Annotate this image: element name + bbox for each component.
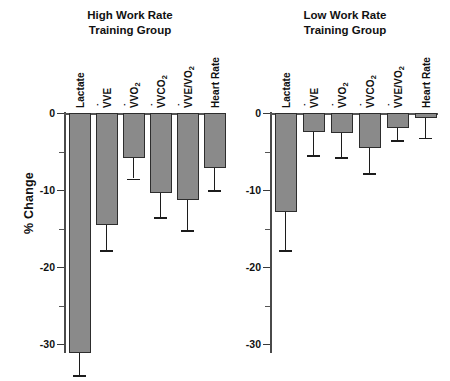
y-tick-minus15 bbox=[59, 229, 64, 230]
y-ticklabel-minus30: -30 bbox=[246, 338, 261, 350]
figure-chart-percent-change: % Change High Work Rate Training Group 0… bbox=[0, 0, 450, 381]
bar-label-ve-vo2-sub: 2 bbox=[186, 66, 195, 70]
bar-label-lactate: Lactate bbox=[74, 72, 85, 108]
plot-area-low-work-rate: 0 -10 -20 -30 Lactate VVE bbox=[270, 113, 438, 353]
bar-label-ve-vo2: VVE/VO2 bbox=[182, 66, 193, 108]
panel-low-work-rate: Low Work Rate Training Group 0 -10 -20 -… bbox=[240, 0, 450, 381]
y-ticklabel-minus10: -10 bbox=[40, 184, 55, 196]
y-tick-minus20 bbox=[57, 267, 64, 268]
overdot-ve: V bbox=[308, 101, 319, 108]
bar-rect-ve bbox=[96, 113, 118, 225]
error-line-lactate bbox=[79, 353, 81, 375]
error-cap-heart-rate bbox=[208, 190, 221, 192]
bar-item-vo2: VVO2 bbox=[123, 113, 145, 353]
bar-label-lactate: Lactate bbox=[280, 72, 291, 108]
plot-area-high-work-rate: 0 -10 -20 -30 Lactate VVE bbox=[64, 113, 224, 353]
bar-label-vo2-sub: 2 bbox=[340, 82, 349, 86]
bar-item-lactate: Lactate bbox=[69, 113, 91, 353]
y-tick-0 bbox=[263, 113, 270, 114]
error-cap-vco2 bbox=[363, 173, 376, 175]
bar-rect-heart-rate bbox=[204, 113, 226, 168]
overdot-vo2: V bbox=[128, 101, 139, 108]
overdot-ve-vo2: V bbox=[392, 101, 403, 108]
error-line-heart-rate bbox=[425, 118, 427, 138]
bar-label-ve-text: VE bbox=[101, 88, 112, 102]
bar-label-ve-vo2: VVE/VO2 bbox=[392, 66, 403, 108]
bar-item-vco2: VVCO2 bbox=[150, 113, 172, 353]
error-cap-ve bbox=[100, 250, 113, 252]
bar-label-vco2-text: VCO bbox=[155, 79, 166, 101]
panel-title-low-work-rate: Low Work Rate Training Group bbox=[240, 8, 450, 38]
bar-group-high-work-rate: Lactate VVE VVO2 bbox=[66, 113, 225, 353]
y-tick-minus15 bbox=[265, 229, 270, 230]
bar-rect-lactate bbox=[69, 113, 91, 353]
bar-item-vo2: VVO2 bbox=[331, 113, 353, 353]
y-tick-minus25 bbox=[265, 306, 270, 307]
bar-rect-vo2 bbox=[123, 113, 145, 158]
bar-label-ve: VVE bbox=[308, 88, 319, 108]
bar-label-ve-vo2-text: VE/VO bbox=[182, 70, 193, 101]
error-line-ve bbox=[313, 132, 315, 155]
bar-rect-vco2 bbox=[359, 113, 381, 148]
y-tick-minus10 bbox=[57, 190, 64, 191]
y-ticklabel-minus20: -20 bbox=[246, 261, 261, 273]
bar-label-vco2-sub: 2 bbox=[159, 75, 168, 79]
y-ticklabel-0: 0 bbox=[49, 107, 55, 119]
bar-label-ve-vo2-text: VE/VO bbox=[392, 70, 403, 101]
bar-item-lactate: Lactate bbox=[275, 113, 297, 353]
y-ticklabel-minus20: -20 bbox=[40, 261, 55, 273]
y-ticklabel-0: 0 bbox=[255, 107, 261, 119]
bar-label-vo2: VVO2 bbox=[336, 82, 347, 108]
overdot-vco2: V bbox=[155, 101, 166, 108]
overdot-vco2: V bbox=[364, 101, 375, 108]
bar-label-vo2-text: VO bbox=[128, 87, 139, 102]
error-line-vo2 bbox=[133, 158, 135, 179]
panel-title-line1: Low Work Rate bbox=[240, 8, 450, 23]
panel-title-high-work-rate: High Work Rate Training Group bbox=[30, 8, 230, 38]
panel-title-line1: High Work Rate bbox=[30, 8, 230, 23]
bar-label-vo2-text: VO bbox=[336, 87, 347, 102]
overdot-vo2: V bbox=[336, 101, 347, 108]
error-line-vco2 bbox=[160, 193, 162, 217]
error-cap-heart-rate bbox=[419, 138, 432, 140]
y-tick-minus10 bbox=[263, 190, 270, 191]
y-tick-0 bbox=[57, 113, 64, 114]
error-line-ve bbox=[106, 225, 108, 250]
bar-label-vco2: VVCO2 bbox=[364, 75, 375, 108]
error-cap-vo2 bbox=[335, 157, 348, 159]
y-tick-minus30 bbox=[57, 344, 64, 345]
bar-label-heart-rate: Heart Rate bbox=[420, 57, 431, 108]
error-line-vo2 bbox=[341, 133, 343, 157]
bar-rect-lactate bbox=[275, 113, 297, 212]
error-line-vco2 bbox=[369, 148, 371, 173]
bar-label-vco2-sub: 2 bbox=[368, 75, 377, 79]
bar-label-heart-rate: Heart Rate bbox=[209, 57, 220, 108]
y-ticklabel-minus10: -10 bbox=[246, 184, 261, 196]
error-cap-vco2 bbox=[154, 217, 167, 219]
bar-rect-ve-vo2 bbox=[387, 113, 409, 128]
error-line-heart-rate bbox=[214, 168, 216, 190]
bar-item-vco2: VVCO2 bbox=[359, 113, 381, 353]
bar-rect-vco2 bbox=[150, 113, 172, 193]
error-cap-ve bbox=[307, 155, 320, 157]
bar-rect-ve bbox=[303, 113, 325, 132]
panel-high-work-rate: High Work Rate Training Group 0 -10 -20 … bbox=[30, 0, 230, 381]
bar-rect-ve-vo2 bbox=[177, 113, 199, 200]
bar-group-low-work-rate: Lactate VVE VVO2 bbox=[272, 113, 439, 353]
panel-title-line2: Training Group bbox=[30, 23, 230, 38]
bar-label-vco2: VVCO2 bbox=[155, 75, 166, 108]
overdot-ve-vo2: V bbox=[182, 101, 193, 108]
y-tick-minus30 bbox=[263, 344, 270, 345]
bar-label-ve-text: VE bbox=[308, 88, 319, 102]
panel-title-line2: Training Group bbox=[240, 23, 450, 38]
error-line-ve-vo2 bbox=[397, 128, 399, 140]
y-tick-minus5 bbox=[265, 152, 270, 153]
error-line-lactate bbox=[285, 212, 287, 250]
bar-label-vo2: VVO2 bbox=[128, 82, 139, 108]
bar-item-ve: VVE bbox=[96, 113, 118, 353]
error-line-ve-vo2 bbox=[187, 200, 189, 230]
error-cap-ve-vo2 bbox=[391, 140, 404, 142]
error-cap-lactate bbox=[279, 250, 292, 252]
y-tick-minus25 bbox=[59, 306, 64, 307]
y-tick-minus20 bbox=[263, 267, 270, 268]
